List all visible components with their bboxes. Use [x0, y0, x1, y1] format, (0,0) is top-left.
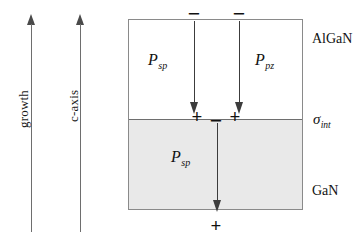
polarization-diagram: growth c-axis − − Psp Ppz: [0, 0, 363, 243]
algan-ppz-arrow-shaft: [239, 21, 240, 103]
sigma-sub: int: [321, 120, 331, 130]
growth-axis-label: growth: [16, 90, 32, 128]
algan-psp-arrow: [189, 21, 200, 115]
algan-psp-base: P: [148, 51, 158, 68]
gan-psp-sub: sp: [181, 157, 190, 168]
algan-ppz-base: P: [255, 51, 265, 68]
c-axis-arrow: [74, 14, 88, 232]
sigma-base: σ: [313, 111, 320, 127]
charge-interface-plus-right: +: [227, 107, 243, 126]
algan-psp-label: Psp: [148, 51, 167, 71]
algan-layer-label: AlGaN: [312, 31, 352, 47]
gan-psp-arrow-shaft: [217, 123, 218, 201]
algan-psp-arrow-shaft: [194, 21, 195, 103]
interface-charge-label: σint: [313, 110, 331, 130]
c-axis-label: c-axis: [66, 90, 82, 122]
algan-ppz-arrow: [234, 21, 245, 115]
growth-axis-shaft: [31, 24, 32, 232]
gan-psp-base: P: [171, 148, 181, 165]
charge-bottom-sheet: +: [208, 216, 224, 235]
algan-ppz-label: Ppz: [255, 51, 274, 71]
c-axis-shaft: [80, 24, 81, 232]
gan-layer-label: GaN: [312, 183, 338, 199]
charge-interface-minus-middle: −: [208, 110, 224, 132]
charge-interface-plus-left: +: [189, 107, 205, 126]
gan-psp-label: Psp: [171, 148, 190, 168]
algan-psp-sub: sp: [158, 60, 167, 71]
algan-ppz-sub: pz: [265, 60, 274, 71]
gan-psp-arrowhead: [213, 200, 221, 212]
